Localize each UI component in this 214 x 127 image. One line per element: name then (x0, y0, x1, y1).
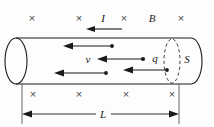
charge-dot-q (141, 57, 145, 61)
drift-arrow-lower-right-head (123, 67, 133, 74)
dimension-arrowhead-right (169, 111, 179, 118)
field-cross-top-1: × (29, 12, 35, 24)
drift-arrow-middle-head (97, 56, 107, 63)
drift-arrow-lower-head (54, 70, 64, 77)
magnetic-field-marks-top: × × × × (29, 12, 184, 24)
drift-arrow-top-head (63, 43, 73, 50)
label-current-I: I (100, 12, 106, 24)
field-cross-bottom-1: × (30, 88, 36, 100)
drift-arrow-lower-right (123, 67, 169, 74)
drift-arrow-lower (54, 70, 108, 77)
cylinder-left-cap (5, 38, 27, 84)
physics-figure-cylinder-in-magnetic-field: × × × × × × × × (0, 0, 214, 127)
drift-arrow-middle (97, 56, 145, 63)
magnetic-field-marks-bottom: × × × × (30, 88, 175, 100)
charge-dot-lower (104, 71, 108, 75)
cylinder-right-cap (191, 38, 202, 84)
field-cross-top-4: × (178, 12, 184, 24)
label-length-L: L (99, 108, 106, 120)
dimension-arrowhead-left (22, 111, 32, 118)
drift-arrow-top (63, 43, 114, 50)
label-cross-section-S: S (184, 53, 190, 65)
field-cross-bottom-4: × (169, 88, 175, 100)
charge-dot-lower-right (165, 68, 169, 72)
cross-section-group (164, 39, 180, 83)
label-velocity-v: v (86, 53, 91, 65)
field-cross-bottom-3: × (123, 88, 129, 100)
current-arrow-head (86, 26, 95, 32)
field-cross-top-2: × (76, 12, 82, 24)
field-cross-top-3: × (121, 12, 127, 24)
cross-section-ellipse-dashed (164, 39, 180, 83)
current-arrow-group (86, 26, 122, 32)
field-cross-bottom-2: × (76, 88, 82, 100)
figure-canvas: × × × × × × × × (0, 0, 214, 127)
charge-dot-top (110, 44, 114, 48)
label-magnetic-field-B: B (149, 12, 156, 24)
label-charge-q: q (152, 52, 158, 64)
